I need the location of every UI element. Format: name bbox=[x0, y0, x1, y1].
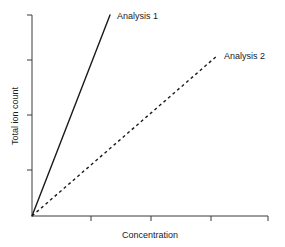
series-label-analysis-1: Analysis 1 bbox=[117, 11, 158, 21]
series-line-analysis-1 bbox=[32, 15, 110, 216]
y-axis-label: Total ion count bbox=[10, 86, 20, 145]
x-axis-label: Concentration bbox=[122, 230, 178, 240]
series-label-analysis-2: Analysis 2 bbox=[224, 51, 265, 61]
series-line-analysis-2 bbox=[32, 55, 218, 216]
chart-plot-area: Analysis 1 Analysis 2 Concentration Tota… bbox=[0, 0, 285, 247]
chart-container: Analysis 1 Analysis 2 Concentration Tota… bbox=[0, 0, 285, 247]
